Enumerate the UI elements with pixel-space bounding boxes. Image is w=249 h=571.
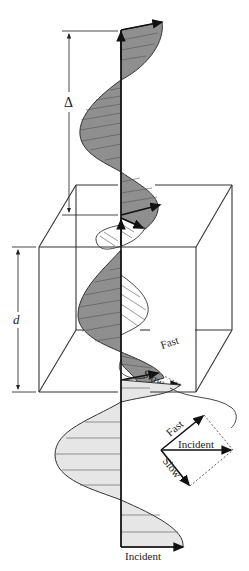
delta-label: Δ [64,95,73,110]
d-label: d [13,312,20,327]
birefringence-diagram: Δ Fast Slow [0,0,249,571]
incident-label-bottom: Incident [125,550,161,562]
incident-wave: Incident [55,380,183,562]
thickness-dimension: d [12,247,36,392]
incident-vector-label: Incident [178,438,214,450]
slow-vector-label: Slow [160,455,183,480]
fast-vector-label: Fast [164,418,186,439]
fast-label-crystal: Fast [159,334,180,351]
vector-diagram: Fast Incident Slow [160,415,233,486]
